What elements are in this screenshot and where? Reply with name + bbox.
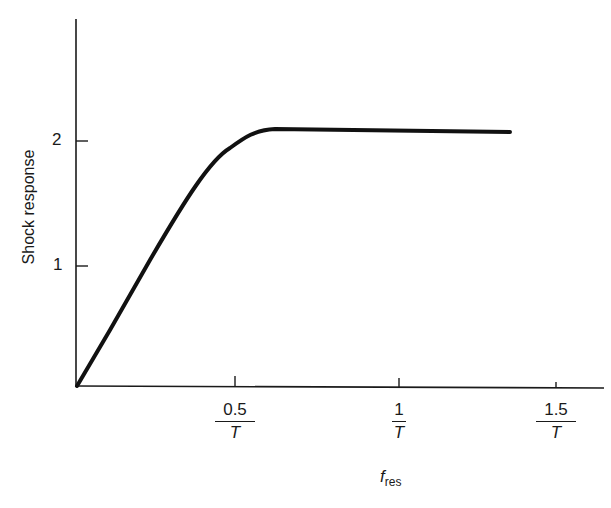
y-tick-label-1: 1 [53, 255, 62, 275]
y-tick-label-2: 2 [52, 130, 61, 150]
shock-response-curve [77, 129, 510, 386]
y-axis-label: Shock response [20, 142, 38, 272]
chart-canvas [0, 0, 611, 508]
x-tick-05-numerator: 0.5 [215, 400, 255, 422]
x-axis-label-subscript: res [385, 475, 402, 489]
x-axis-label: fres [380, 467, 401, 489]
x-tick-label-1: 1 T [380, 400, 418, 444]
x-tick-1-numerator: 1 [392, 400, 406, 422]
x-tick-05-denominator: T [215, 422, 255, 444]
x-tick-15-numerator: 1.5 [536, 400, 576, 422]
x-tick-1-denominator: T [380, 422, 418, 444]
x-tick-label-15: 1.5 T [536, 400, 576, 444]
x-tick-label-05: 0.5 T [215, 400, 255, 444]
x-axis [76, 386, 604, 388]
x-tick-15-denominator: T [536, 422, 576, 444]
